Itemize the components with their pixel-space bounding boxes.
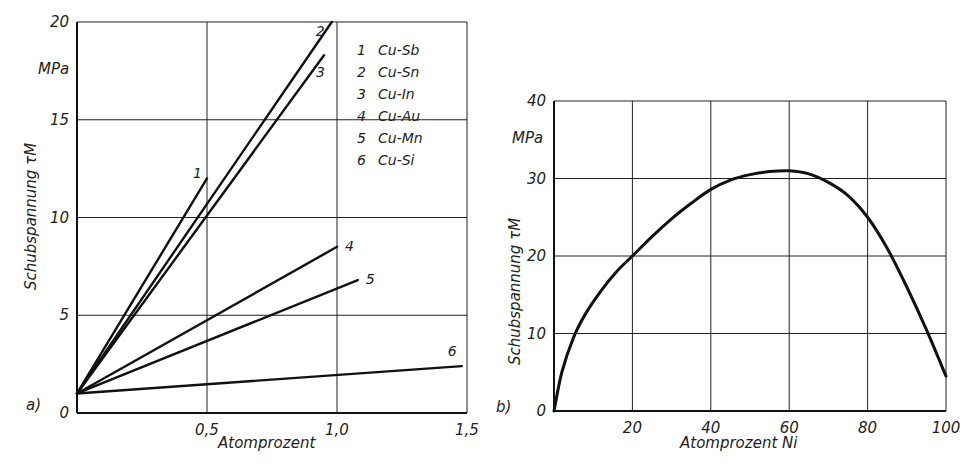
chart-a-ylabel: Schubspannung τM bbox=[22, 143, 40, 290]
legend-item-number: 2 bbox=[357, 64, 366, 80]
chart-b-yunit: MPa bbox=[512, 129, 543, 147]
chart-b-xlabel: Atomprozent Ni bbox=[679, 434, 798, 452]
y-tick-label: 15 bbox=[50, 111, 69, 129]
series-end-label: 5 bbox=[366, 271, 375, 287]
x-tick-label: 1,0 bbox=[325, 421, 349, 439]
legend-item-number: 1 bbox=[357, 42, 366, 58]
series-end-label: 2 bbox=[316, 23, 325, 39]
legend-item-number: 3 bbox=[357, 86, 366, 102]
chart-a-cu-alloys: 123456 0,51,01,505101520 a) Atomprozent … bbox=[22, 13, 479, 452]
series-line-cu-sb bbox=[77, 178, 207, 393]
series-end-label: 6 bbox=[448, 343, 457, 359]
chart-b-ylabel: Schubspannung τM bbox=[506, 218, 524, 365]
y-tick-label: 10 bbox=[527, 325, 546, 343]
legend-item-label: Cu-Si bbox=[378, 152, 415, 168]
x-tick-label: 100 bbox=[932, 419, 961, 437]
y-tick-label: 10 bbox=[50, 209, 69, 227]
series-end-label: 3 bbox=[316, 64, 325, 80]
figure-canvas: 123456 0,51,01,505101520 a) Atomprozent … bbox=[0, 0, 967, 470]
chart-a-panel-label: a) bbox=[26, 396, 41, 414]
x-tick-label: 0,5 bbox=[195, 421, 219, 439]
y-tick-label: 0 bbox=[536, 402, 546, 420]
y-tick-label: 0 bbox=[59, 404, 69, 422]
series-line-cu-sn bbox=[77, 22, 332, 393]
chart-a-yunit: MPa bbox=[38, 60, 69, 78]
legend-item-label: Cu-Au bbox=[378, 108, 420, 124]
legend-item-label: Cu-Mn bbox=[378, 130, 423, 146]
legend-item-number: 5 bbox=[357, 130, 366, 146]
x-tick-label: 1,5 bbox=[455, 421, 479, 439]
y-tick-label: 20 bbox=[50, 13, 69, 31]
chart-a-grid bbox=[77, 22, 467, 413]
chart-b-series bbox=[554, 171, 946, 411]
legend-item-label: Cu-In bbox=[378, 86, 415, 102]
chart-a-legend: 1Cu-Sb2Cu-Sn3Cu-In4Cu-Au5Cu-Mn6Cu-Si bbox=[357, 42, 423, 168]
y-tick-label: 30 bbox=[527, 170, 546, 188]
x-tick-label: 20 bbox=[623, 419, 642, 437]
chart-b-panel-label: b) bbox=[496, 398, 511, 416]
chart-b-grid bbox=[554, 101, 946, 411]
series-line-cu-ni bbox=[554, 171, 946, 411]
series-end-label: 4 bbox=[345, 238, 354, 254]
legend-item-label: Cu-Sn bbox=[378, 64, 419, 80]
legend-item-label: Cu-Sb bbox=[378, 42, 420, 58]
x-tick-label: 80 bbox=[858, 419, 877, 437]
series-end-label: 1 bbox=[193, 165, 202, 181]
chart-b-cu-ni: 20406080100010203040 b) Atomprozent Ni M… bbox=[496, 92, 960, 452]
y-tick-label: 5 bbox=[59, 306, 69, 324]
y-tick-label: 40 bbox=[527, 92, 546, 110]
chart-a-xlabel: Atomprozent bbox=[217, 434, 316, 452]
legend-item-number: 4 bbox=[357, 108, 366, 124]
y-tick-label: 20 bbox=[527, 247, 546, 265]
legend-item-number: 6 bbox=[357, 152, 366, 168]
